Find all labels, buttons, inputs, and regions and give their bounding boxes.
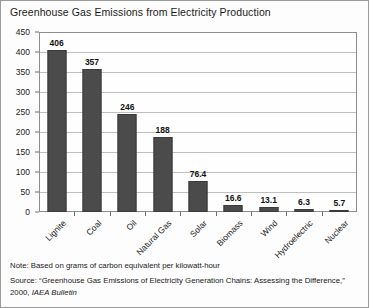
x-tick-label-text: Natural Gas	[135, 218, 174, 257]
bars-layer: 40635724618876.416.613.16.35.7	[39, 32, 357, 212]
bar-slot: 357	[74, 32, 109, 212]
y-tick-label: 0	[25, 207, 30, 217]
bar-value-label: 13.1	[260, 195, 277, 205]
y-tick-label: 400	[16, 47, 30, 57]
bar-slot: 188	[145, 32, 180, 212]
y-tick-label: 150	[16, 147, 30, 157]
bar[interactable]	[118, 114, 137, 212]
x-tick-label-text: Lignite	[43, 218, 68, 243]
x-tick-label-text: Wind	[259, 218, 280, 239]
bar-value-label: 357	[85, 57, 99, 67]
y-tick-label: 450	[16, 27, 30, 37]
bar-value-label: 188	[156, 125, 170, 135]
y-tick-label: 350	[16, 67, 30, 77]
chart-title: Greenhouse Gas Emissions from Electricit…	[10, 6, 271, 18]
bar-value-label: 16.6	[225, 193, 242, 203]
source-year: 2000,	[10, 288, 32, 297]
bar-slot: 5.7	[322, 32, 357, 212]
chart-figure: Greenhouse Gas Emissions from Electricit…	[0, 0, 369, 308]
y-tick-label: 50	[21, 187, 30, 197]
note-line: Note: Based on grams of carbon equivalen…	[10, 260, 360, 272]
y-tick-label: 250	[16, 107, 30, 117]
bar[interactable]	[153, 137, 172, 212]
bar-value-label: 5.7	[333, 198, 345, 208]
bar-value-label: 246	[120, 102, 134, 112]
bar-value-label: 406	[50, 38, 64, 48]
x-tick-label-text: Solar	[188, 218, 209, 239]
bar[interactable]	[188, 181, 207, 212]
x-tick-mark	[322, 212, 323, 216]
bar[interactable]	[47, 50, 66, 212]
bar-slot: 406	[39, 32, 74, 212]
source-line: Source: “Greenhouse Gas Emissions of Ele…	[10, 275, 360, 299]
bar-slot: 246	[110, 32, 145, 212]
bar-value-label: 76.4	[190, 169, 207, 179]
x-tick-mark	[251, 212, 252, 216]
y-tick-label: 100	[16, 167, 30, 177]
source-publication: IAEA Bulletin	[32, 288, 77, 297]
bar-value-label: 6.3	[298, 197, 310, 207]
x-tick-label-text: Biomass	[214, 218, 244, 248]
x-tick-mark	[145, 212, 146, 216]
bar-slot: 16.6	[216, 32, 251, 212]
x-axis: LigniteCoalOilNatural GasSolarBiomassWin…	[39, 212, 357, 260]
x-tick-mark	[110, 212, 111, 216]
x-tick-label-text: Oil	[124, 218, 138, 232]
y-axis: 050100150200250300350400450	[1, 32, 35, 212]
x-tick-mark	[180, 212, 181, 216]
bar-slot: 6.3	[286, 32, 321, 212]
x-tick-mark	[286, 212, 287, 216]
x-tick-mark	[216, 212, 217, 216]
bar-slot: 13.1	[251, 32, 286, 212]
y-tick-label: 200	[16, 127, 30, 137]
bar-slot: 76.4	[180, 32, 215, 212]
y-tick-label: 300	[16, 87, 30, 97]
source-prefix: Source: “Greenhouse Gas Emissions of Ele…	[10, 276, 345, 285]
bar[interactable]	[224, 205, 243, 212]
x-tick-mark	[74, 212, 75, 216]
x-tick-label-text: Coal	[84, 218, 103, 237]
bar[interactable]	[82, 69, 101, 212]
footnotes: Note: Based on grams of carbon equivalen…	[10, 260, 360, 299]
x-tick-label-text: Nuclear	[323, 218, 351, 246]
